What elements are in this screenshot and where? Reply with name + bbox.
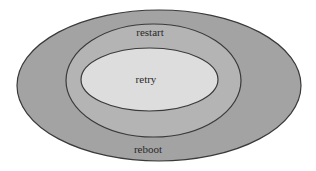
- nested-recovery-diagram: restart retry reboot: [0, 0, 316, 171]
- retry-label: retry: [136, 73, 157, 85]
- reboot-label: reboot: [134, 143, 162, 155]
- restart-label: restart: [136, 26, 163, 38]
